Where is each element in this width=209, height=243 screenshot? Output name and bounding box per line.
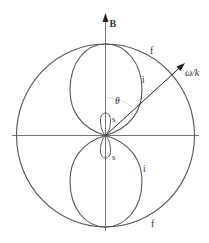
- phase-velocity-label: ω/k: [185, 67, 200, 78]
- fast-mode-label-lower: f: [151, 219, 155, 229]
- intermediate-mode-label-upper: i: [142, 75, 145, 85]
- fast-mode-label-upper: f: [150, 46, 154, 56]
- theta-label: θ: [115, 96, 120, 106]
- slow-mode-label-upper: s: [112, 114, 116, 124]
- wave-mode-diagram: B ω/k θ f f i i s s: [0, 0, 209, 243]
- b-field-arrowhead-icon: [103, 13, 109, 22]
- b-field-label: B: [110, 18, 117, 29]
- intermediate-mode-label-lower: i: [143, 164, 146, 174]
- intermediate-mode-upper-lobe: [70, 44, 142, 136]
- slow-mode-label-lower: s: [112, 152, 116, 162]
- intermediate-mode-lower-lobe: [70, 136, 142, 228]
